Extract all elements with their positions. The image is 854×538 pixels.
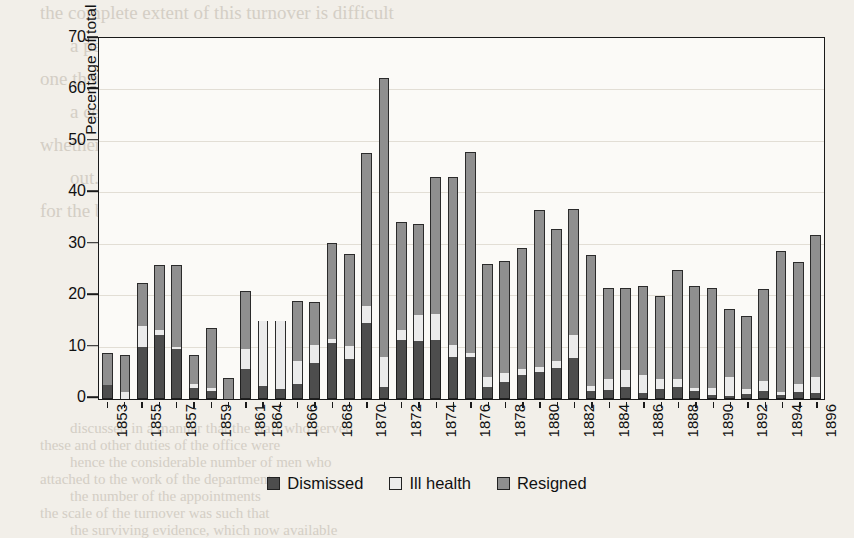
- bar-segment-ill-health: [603, 379, 614, 389]
- bar-segment-dismissed: [586, 391, 597, 399]
- x-tick-slot: 1894: [773, 402, 790, 468]
- stacked-bar[interactable]: [758, 289, 769, 399]
- stacked-bar[interactable]: [793, 262, 804, 399]
- x-tick-mark: [297, 402, 298, 408]
- stacked-bar[interactable]: [154, 265, 165, 399]
- stacked-bar[interactable]: [551, 229, 562, 399]
- stacked-bar[interactable]: [413, 224, 424, 399]
- y-tick-label: 20: [68, 285, 86, 303]
- stacked-bar[interactable]: [189, 355, 200, 399]
- stacked-bar[interactable]: [499, 261, 510, 399]
- stacked-bar[interactable]: [309, 302, 320, 399]
- x-tick-slot: [410, 402, 427, 468]
- stacked-bar[interactable]: [465, 152, 476, 399]
- x-tick-mark: [799, 402, 800, 408]
- stacked-bar[interactable]: [430, 177, 441, 399]
- y-tick-mark: [87, 242, 98, 244]
- x-tick-mark: [574, 402, 575, 408]
- x-tick-slot: [306, 402, 323, 468]
- stacked-bar[interactable]: [620, 288, 631, 399]
- stacked-bar[interactable]: [724, 309, 735, 399]
- bar-segment-dismissed: [758, 391, 769, 399]
- stacked-bar[interactable]: [534, 210, 545, 399]
- stacked-bar[interactable]: [776, 251, 787, 399]
- bar-slot: [444, 38, 461, 399]
- x-tick-mark: [713, 402, 714, 408]
- bar-segment-dismissed: [638, 393, 649, 399]
- bar-segment-ill-health: [758, 381, 769, 391]
- bar-segment-dismissed: [309, 363, 320, 399]
- x-tick-slot: [219, 402, 236, 468]
- x-tick-slot: 1872: [392, 402, 409, 468]
- bar-slot: [99, 38, 116, 399]
- stacked-bar[interactable]: [603, 288, 614, 399]
- stacked-bar[interactable]: [275, 321, 286, 399]
- x-tick-slot: [340, 402, 357, 468]
- stacked-bar[interactable]: [568, 209, 579, 399]
- x-tick-slot: 1890: [704, 402, 721, 468]
- stacked-bar[interactable]: [586, 255, 597, 399]
- stacked-bar[interactable]: [482, 264, 493, 399]
- stacked-bar[interactable]: [707, 288, 718, 399]
- stacked-bar[interactable]: [741, 316, 752, 399]
- stacked-bar[interactable]: [517, 248, 528, 399]
- bar-segment-ill-health: [638, 375, 649, 393]
- stacked-bar[interactable]: [223, 378, 234, 399]
- bar-segment-dismissed: [724, 396, 735, 399]
- x-tick-mark: [678, 402, 679, 408]
- stacked-bar[interactable]: [292, 301, 303, 399]
- bar-segment-dismissed: [292, 384, 303, 399]
- bar-segment-ill-health: [275, 321, 286, 389]
- stacked-bar[interactable]: [240, 291, 251, 399]
- bar-segment-ill-health: [707, 388, 718, 395]
- stacked-bar[interactable]: [171, 265, 182, 399]
- x-tick-mark: [401, 402, 402, 408]
- legend-item-dismissed: Dismissed: [267, 474, 363, 493]
- stacked-bar[interactable]: [810, 235, 821, 399]
- stacked-bar[interactable]: [655, 296, 666, 399]
- stacked-bar[interactable]: [258, 321, 269, 399]
- bar-segment-dismissed: [672, 387, 683, 399]
- bar-segment-ill-health: [120, 392, 131, 399]
- medium-gray-swatch-icon: [497, 477, 510, 490]
- x-tick-slot: 1892: [739, 402, 756, 468]
- bar-segment-resigned: [448, 177, 459, 345]
- x-tick-slot: [375, 402, 392, 468]
- stacked-bar[interactable]: [396, 222, 407, 399]
- stacked-bar[interactable]: [137, 283, 148, 399]
- bar-slot: [807, 38, 824, 399]
- bar-segment-resigned: [379, 78, 390, 357]
- bar-segment-dismissed: [430, 340, 441, 399]
- stacked-bar[interactable]: [361, 153, 372, 399]
- bar-slot: [652, 38, 669, 399]
- x-tick-mark: [522, 402, 523, 408]
- stacked-bar[interactable]: [638, 286, 649, 399]
- x-tick-slot: 1876: [462, 402, 479, 468]
- x-tick-slot: [756, 402, 773, 468]
- stacked-bar[interactable]: [120, 355, 131, 399]
- bar-slot: [496, 38, 513, 399]
- bar-series-container: [99, 38, 824, 399]
- bar-segment-dismissed: [603, 390, 614, 399]
- bar-segment-dismissed: [379, 387, 390, 399]
- bar-slot: [738, 38, 755, 399]
- x-tick-slot: 1861: [237, 402, 254, 468]
- stacked-bar[interactable]: [206, 328, 217, 399]
- y-axis-ticks: 010203040506070: [0, 37, 98, 400]
- stacked-bar[interactable]: [448, 177, 459, 399]
- stacked-bar[interactable]: [672, 270, 683, 399]
- stacked-bar[interactable]: [689, 286, 700, 399]
- x-tick-mark: [418, 402, 419, 408]
- bar-segment-ill-health: [568, 335, 579, 358]
- stacked-bar[interactable]: [327, 243, 338, 399]
- bar-segment-dismissed: [568, 358, 579, 399]
- stacked-bar[interactable]: [102, 353, 113, 399]
- x-tick-slot: [150, 402, 167, 468]
- x-axis-labels: 1853185518571859186118641866186818701872…: [98, 402, 825, 468]
- y-tick-label: 60: [68, 79, 86, 97]
- stacked-bar[interactable]: [379, 78, 390, 399]
- bar-segment-dismissed: [396, 340, 407, 399]
- bar-segment-dismissed: [275, 389, 286, 399]
- stacked-bar[interactable]: [344, 254, 355, 399]
- bar-segment-dismissed: [171, 349, 182, 399]
